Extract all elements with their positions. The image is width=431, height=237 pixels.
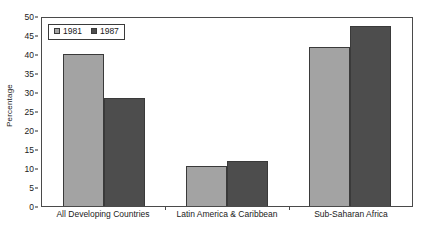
x-axis-labels: All Developing CountriesLatin America & … [41, 209, 413, 219]
y-axis-tick-label: 50 [25, 13, 34, 22]
y-axis-tick-label: 45 [25, 32, 34, 41]
bar[interactable] [63, 54, 104, 206]
bar[interactable] [227, 161, 268, 206]
legend-swatch-icon [91, 28, 97, 34]
y-axis-tick-label: 5 [29, 184, 34, 193]
y-axis-tick-mark [35, 74, 38, 75]
y-axis-tick-label: 35 [25, 70, 34, 79]
y-axis-tick-mark [35, 131, 38, 132]
y-axis-tick-mark [35, 150, 38, 151]
legend-label: 1981 [63, 27, 82, 36]
y-axis-tick-mark [35, 188, 38, 189]
bar[interactable] [104, 98, 145, 206]
bar-groups [42, 18, 412, 206]
x-axis-category-label: All Developing Countries [41, 209, 165, 219]
y-axis-tick-label: 40 [25, 51, 34, 60]
bar[interactable] [309, 47, 350, 206]
y-axis-tick-mark [35, 207, 38, 208]
y-axis-tick-label: 10 [25, 165, 34, 174]
legend-item[interactable]: 1981 [54, 27, 82, 36]
legend: 19811987 [48, 24, 125, 40]
bar-group [289, 18, 412, 206]
legend-label: 1987 [100, 27, 119, 36]
x-axis-category-label: Sub-Saharan Africa [289, 209, 413, 219]
y-axis-tick-label: 15 [25, 146, 34, 155]
bar-group [165, 18, 288, 206]
y-axis-tick-mark [35, 169, 38, 170]
y-axis-tick-label: 25 [25, 108, 34, 117]
y-axis-ticks: 05101520253035404550 [17, 17, 38, 207]
y-axis-tick-mark [35, 93, 38, 94]
y-axis-tick-mark [35, 36, 38, 37]
y-axis-tick-label: 20 [25, 127, 34, 136]
y-axis-tick-mark [35, 55, 38, 56]
x-axis-category-label: Latin America & Caribbean [165, 209, 289, 219]
bar-chart: Percentage 05101520253035404550 19811987… [0, 0, 431, 237]
y-axis-tick-label: 30 [25, 89, 34, 98]
plot-area [41, 17, 413, 207]
bar-group [42, 18, 165, 206]
y-axis-title-text: Percentage [5, 84, 14, 127]
bar[interactable] [186, 166, 227, 206]
legend-swatch-icon [54, 28, 60, 34]
y-axis-title: Percentage [2, 0, 16, 210]
legend-item[interactable]: 1987 [91, 27, 119, 36]
y-axis-tick-mark [35, 112, 38, 113]
y-axis-tick-mark [35, 17, 38, 18]
y-axis-tick-label: 0 [29, 203, 34, 212]
bar[interactable] [350, 26, 391, 206]
